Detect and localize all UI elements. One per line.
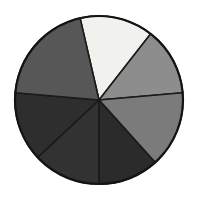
pie-chart-svg bbox=[0, 0, 198, 202]
pie-chart-figure bbox=[0, 0, 198, 202]
